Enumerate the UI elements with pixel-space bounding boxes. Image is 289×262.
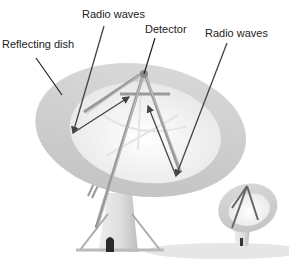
label-radio-waves-right: Radio waves [205, 27, 268, 39]
label-radio-waves-left: Radio waves [82, 8, 145, 20]
label-detector: Detector [145, 23, 187, 35]
ground [145, 243, 289, 259]
label-reflecting-dish: Reflecting dish [2, 38, 74, 50]
small-telescope [213, 177, 283, 246]
